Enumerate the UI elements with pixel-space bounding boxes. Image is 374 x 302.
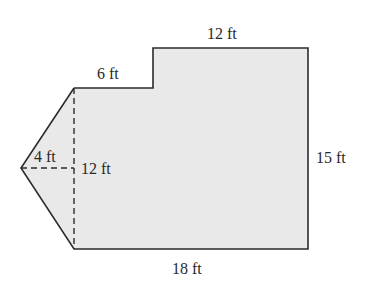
label-bottom: 18 ft: [172, 260, 202, 277]
label-top-right: 12 ft: [207, 25, 237, 42]
shape-fill: [21, 48, 308, 249]
label-right: 15 ft: [316, 149, 346, 166]
label-top-left: 6 ft: [97, 65, 119, 82]
label-triangle-height: 4 ft: [34, 148, 56, 165]
composite-figure: 12 ft 6 ft 15 ft 18 ft 4 ft 12 ft: [0, 0, 374, 302]
label-triangle-base: 12 ft: [81, 160, 111, 177]
